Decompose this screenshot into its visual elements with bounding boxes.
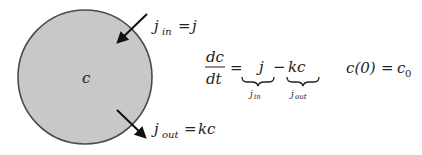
derivative-denominator: dt: [206, 70, 223, 88]
minus-sign: −: [273, 58, 286, 76]
influx-label: j in = j: [151, 17, 197, 37]
svg-text:j: j: [289, 89, 294, 99]
efflux-label: j out = kc: [151, 120, 216, 140]
svg-text:out: out: [162, 129, 179, 140]
diagram-canvas: c j in = j j out = kc dc dt = j j in − k…: [0, 0, 422, 155]
svg-text:in: in: [254, 93, 261, 101]
svg-text:j: j: [151, 120, 159, 138]
svg-text:j: j: [248, 89, 253, 99]
svg-text:c(0): c(0): [346, 59, 376, 77]
svg-text:=: =: [178, 17, 191, 35]
underbrace-influx: [242, 77, 274, 86]
svg-text:out: out: [295, 93, 307, 101]
initial-condition: c(0) = c 0: [346, 59, 411, 79]
svg-text:0: 0: [405, 68, 411, 79]
svg-text:=: =: [184, 120, 197, 138]
svg-text:=: =: [381, 59, 394, 77]
equals-sign: =: [230, 59, 243, 77]
term-efflux: kc: [288, 58, 306, 76]
compartment-label: c: [82, 69, 91, 87]
ode-equation: dc dt = j j in − kc j out: [205, 48, 319, 101]
derivative-numerator: dc: [206, 48, 225, 66]
term-influx: j: [256, 58, 264, 76]
svg-text:in: in: [162, 26, 172, 37]
underbrace-efflux: [287, 77, 319, 86]
svg-text:kc: kc: [198, 120, 216, 138]
svg-text:j: j: [151, 17, 159, 35]
